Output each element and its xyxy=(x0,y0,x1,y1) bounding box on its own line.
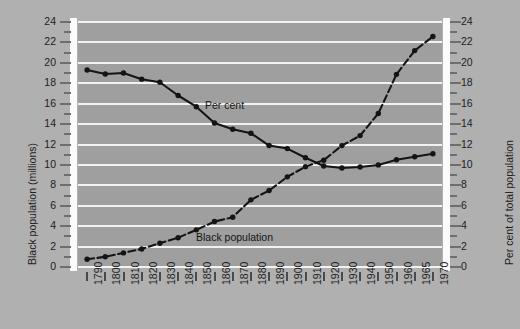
x-axis-tick xyxy=(286,272,288,281)
axis-tick-label: 14 xyxy=(30,118,56,128)
axis-tick xyxy=(450,144,461,146)
axis-tick-label: 14 xyxy=(461,118,487,128)
x-axis-tick xyxy=(432,272,434,281)
axis-tick xyxy=(60,41,71,43)
x-axis-tick xyxy=(341,272,343,281)
data-point xyxy=(139,76,144,81)
axis-tick xyxy=(450,41,461,43)
data-point xyxy=(139,246,144,251)
data-point xyxy=(266,143,271,148)
axis-tick-label: 20 xyxy=(30,57,56,67)
x-axis-tick xyxy=(159,272,161,281)
x-axis-tick-label: 1880 xyxy=(256,262,268,285)
annotation-per-cent: Per cent xyxy=(205,99,244,111)
axis-tick xyxy=(64,113,71,115)
axis-tick xyxy=(60,164,71,166)
axis-tick xyxy=(60,82,71,84)
axis-tick xyxy=(450,72,457,74)
x-axis-tick-label: 1950 xyxy=(383,262,395,285)
data-point xyxy=(303,155,308,160)
x-axis-tick-label: 1960 xyxy=(402,262,414,285)
x-axis-tick-label: 1840 xyxy=(183,262,195,285)
annotation-black-population: Black population xyxy=(196,231,273,243)
data-point xyxy=(212,120,217,125)
axis-tick xyxy=(60,21,71,23)
x-axis-tick-label: 1850 xyxy=(201,262,213,285)
series-line-black-population xyxy=(87,37,433,260)
axis-tick xyxy=(450,205,461,207)
data-point xyxy=(230,214,235,219)
axis-tick xyxy=(450,184,461,186)
axis-tick-label: 18 xyxy=(461,77,487,87)
data-point xyxy=(430,151,435,156)
data-point xyxy=(212,219,217,224)
x-axis-tick xyxy=(396,272,398,281)
data-point xyxy=(248,197,253,202)
axis-tick-label: 24 xyxy=(461,16,487,26)
data-point xyxy=(339,143,344,148)
series-line-per-cent xyxy=(87,70,433,168)
axis-tick-label: 22 xyxy=(461,36,487,46)
data-point xyxy=(339,165,344,170)
axis-tick xyxy=(450,113,457,115)
axis-tick-label: 18 xyxy=(30,77,56,87)
x-axis-tick xyxy=(177,272,179,281)
x-axis-tick-label: 1820 xyxy=(147,262,159,285)
axis-tick-label: 12 xyxy=(461,139,487,149)
data-point xyxy=(248,131,253,136)
axis-tick xyxy=(450,82,461,84)
x-axis-tick xyxy=(123,272,125,281)
axis-tick xyxy=(450,174,457,176)
data-point xyxy=(266,188,271,193)
x-axis-tick xyxy=(195,272,197,281)
axis-tick-label: 2 xyxy=(461,241,487,251)
data-point xyxy=(157,80,162,85)
axis-tick xyxy=(450,225,461,227)
x-axis-tick-label: 1970 xyxy=(438,262,450,285)
x-axis-tick xyxy=(305,272,307,281)
axis-tick-label: 24 xyxy=(30,16,56,26)
axis-tick xyxy=(450,31,457,33)
data-point xyxy=(394,157,399,162)
axis-tick xyxy=(60,225,71,227)
axis-tick xyxy=(450,133,457,135)
x-axis-tick xyxy=(104,272,106,281)
data-point xyxy=(285,146,290,151)
axis-tick xyxy=(60,205,71,207)
left-axis-title: Black population (millions) xyxy=(26,143,38,265)
axis-tick-label: 16 xyxy=(30,98,56,108)
data-point xyxy=(321,158,326,163)
axis-tick xyxy=(450,246,461,248)
x-axis-tick-label: 1920 xyxy=(329,262,341,285)
axis-tick xyxy=(450,103,461,105)
axis-tick xyxy=(64,174,71,176)
x-axis-tick-label: 1860 xyxy=(220,262,232,285)
axis-tick xyxy=(450,21,461,23)
data-point xyxy=(412,48,417,53)
data-point xyxy=(430,34,435,39)
axis-tick xyxy=(450,92,457,94)
x-axis-tick-label: 1900 xyxy=(292,262,304,285)
data-point xyxy=(103,254,108,259)
axis-tick xyxy=(450,154,457,156)
axis-tick-label: 20 xyxy=(461,57,487,67)
data-point xyxy=(194,104,199,109)
x-axis-tick-label: 1810 xyxy=(129,262,141,285)
x-axis-tick-label: 1890 xyxy=(274,262,286,285)
axis-tick xyxy=(64,52,71,54)
data-point xyxy=(84,67,89,72)
chart-figure: 024681012141618202224 Black population (… xyxy=(0,0,520,329)
data-point xyxy=(121,70,126,75)
axis-tick xyxy=(60,62,71,64)
axis-tick xyxy=(450,62,461,64)
axis-tick xyxy=(64,92,71,94)
axis-tick xyxy=(450,195,457,197)
x-axis-tick xyxy=(359,272,361,281)
data-point xyxy=(412,154,417,159)
data-point xyxy=(394,72,399,77)
axis-tick xyxy=(450,52,457,54)
data-point xyxy=(157,241,162,246)
data-point xyxy=(376,111,381,116)
axis-tick xyxy=(60,184,71,186)
axis-tick xyxy=(64,154,71,156)
